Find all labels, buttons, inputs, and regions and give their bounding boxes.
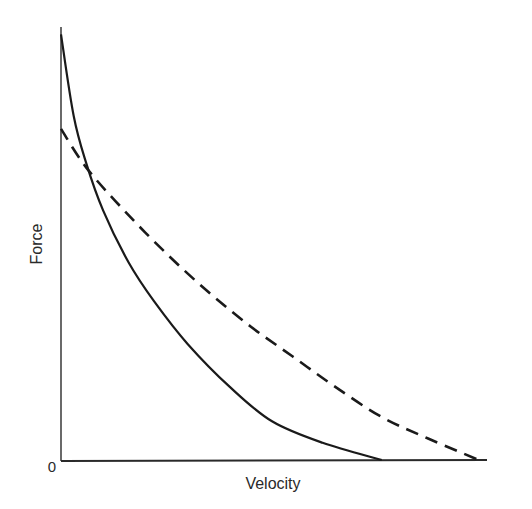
dashed-curve-series xyxy=(61,129,479,460)
force-velocity-chart: 0 Velocity Force xyxy=(0,0,532,509)
x-axis-label: Velocity xyxy=(245,475,300,492)
x-axis xyxy=(61,460,487,461)
origin-label: 0 xyxy=(48,458,56,475)
plot-area xyxy=(61,27,487,461)
solid-curve-series xyxy=(61,34,382,460)
y-axis-label: Force xyxy=(28,223,45,264)
